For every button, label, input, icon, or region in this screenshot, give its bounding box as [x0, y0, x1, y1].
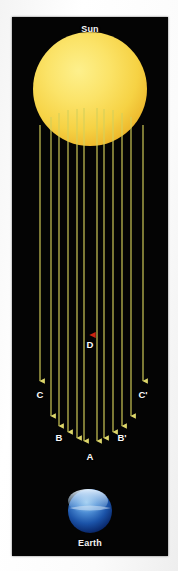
diagram-scene: Sun Earth D CBAB'C' [12, 17, 168, 556]
diagram-artwork [12, 17, 168, 556]
sun-rays-group [40, 108, 143, 441]
earth-label: Earth [78, 538, 102, 548]
ray-label-b: B [56, 432, 63, 443]
diagram-root: Sun Earth D CBAB'C' [0, 0, 178, 571]
sun-label: Sun [81, 24, 99, 34]
ray-label-c-prime: C' [138, 389, 147, 400]
ray-label-c: C [37, 389, 44, 400]
ray-label-b-prime: B' [117, 432, 126, 443]
ray-label-d: D [87, 339, 94, 350]
ray-label-a: A [87, 451, 94, 462]
diagram-panel: Sun Earth D CBAB'C' [12, 17, 168, 556]
